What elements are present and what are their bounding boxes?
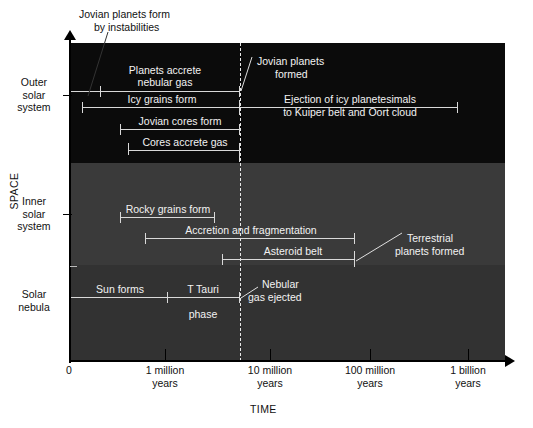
x-tick-10-million [270, 349, 271, 360]
bar-asteroid-belt [222, 259, 355, 260]
bar-icy-grains-form [82, 107, 240, 108]
annotation-jovian-planets-formed-line1: Jovian planets [257, 55, 324, 68]
bar-jovian-cores-form [120, 129, 240, 130]
x-tick-100-million [370, 349, 371, 360]
x-tick-label-100-million-line2: years [322, 377, 418, 390]
bar-label-rocky-grains-form: Rocky grains form [118, 203, 218, 216]
bar-accretion-and-fragmentation [145, 238, 355, 239]
annotation-jovian-instabilities-line1: Jovian planets form [79, 8, 170, 21]
bar-cap-left [145, 233, 146, 244]
bar-cap-right [239, 124, 240, 135]
bar-cap-left [120, 124, 121, 135]
x-tick-label-1-million-line1: 1 million [117, 364, 213, 377]
bar-cores-accrete-gas [128, 150, 240, 151]
annotation-nebular-gas-ejected-line1: Nebular [262, 278, 299, 291]
region-label-inner-line1: Inner [3, 195, 65, 208]
bar-label-t-tauri-line1: T Tauri [171, 283, 235, 296]
bar-label-ejection-line1: Ejection of icy planetesimals [252, 93, 448, 106]
bar-rocky-grains-form [120, 217, 215, 218]
x-tick-label-100-million-line1: 100 million [322, 364, 418, 377]
region-label-nebula-line1: Solar [3, 288, 65, 301]
bar-planets-accrete-nebular-gas [70, 91, 240, 92]
y-axis-arrow-icon [64, 30, 76, 40]
x-axis-line [70, 360, 507, 362]
x-tick-label-1-billion-line2: years [420, 377, 516, 390]
bar-t-tauri-phase [167, 297, 240, 298]
y-tick-nebula [70, 266, 77, 267]
plot-area: Planets accrete nebular gas Icy grains f… [70, 43, 505, 361]
annotation-nebular-gas-ejected-line2: gas ejected [248, 291, 302, 304]
x-tick-1-billion [468, 349, 469, 360]
bar-label-cores-accrete-gas: Cores accrete gas [128, 136, 242, 149]
bar-cap-right [457, 102, 458, 113]
bar-label-planets-accrete-line1: Planets accrete [90, 64, 240, 77]
region-label-outer-line1: Outer [3, 76, 65, 89]
bar-cap-left [222, 254, 223, 265]
bar-cap-right [354, 251, 355, 267]
region-label-inner-line3: system [3, 220, 65, 233]
bar-label-accretion-and-fragmentation: Accretion and fragmentation [155, 224, 347, 237]
x-tick-label-10-million-line1: 10 million [222, 364, 318, 377]
bar-label-asteroid-belt: Asteroid belt [238, 245, 348, 258]
bar-label-icy-grains-form: Icy grains form [92, 93, 232, 106]
bar-cap-right [239, 292, 240, 303]
x-tick-label-1-million-line2: years [117, 377, 213, 390]
y-axis-line [69, 36, 71, 363]
region-label-outer-line2: solar [3, 89, 65, 102]
bar-label-t-tauri-line2: phase [171, 308, 235, 321]
x-tick-1-million [165, 349, 166, 360]
bar-cap-left [82, 102, 83, 113]
x-tick-label-10-million-line2: years [222, 377, 318, 390]
x-tick-label-1-billion-line1: 1 billion [420, 364, 516, 377]
annotation-terrestrial-planets-formed-line2: planets formed [395, 245, 464, 258]
bar-label-ejection-line2: to Kuiper belt and Oort cloud [252, 106, 448, 119]
region-label-outer-line3: system [3, 101, 65, 114]
bar-cap-right [354, 233, 355, 244]
annotation-terrestrial-planets-formed-line1: Terrestrial [407, 232, 453, 245]
x-axis-title: TIME [250, 403, 277, 415]
bar-sun-forms [70, 297, 168, 298]
bar-label-planets-accrete-line2: nebular gas [90, 76, 240, 89]
x-tick-label-zero: 0 [66, 364, 86, 377]
region-label-inner-line2: solar [3, 208, 65, 221]
dashed-divider-line [240, 43, 241, 361]
bar-label-jovian-cores-form: Jovian cores form [123, 115, 237, 128]
annotation-jovian-planets-formed-line2: formed [275, 68, 308, 81]
timeline-diagram: Planets accrete nebular gas Icy grains f… [0, 0, 533, 428]
annotation-jovian-instabilities-line2: by instabilities [94, 21, 159, 34]
region-label-nebula-line2: nebula [3, 301, 65, 314]
bar-label-sun-forms: Sun forms [78, 283, 162, 296]
